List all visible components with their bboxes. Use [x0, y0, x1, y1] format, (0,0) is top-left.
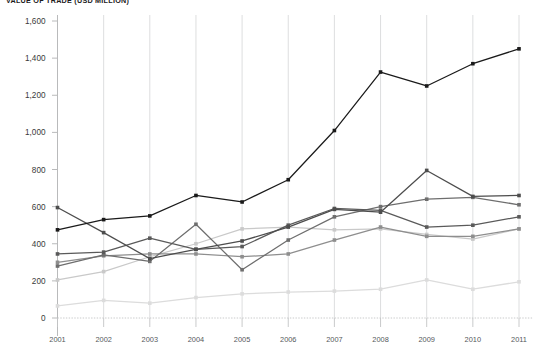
series-data-point — [333, 228, 337, 232]
x-axis-tick-label: 2009 — [418, 335, 434, 344]
series-data-point — [333, 238, 337, 242]
series-data-point — [148, 301, 152, 305]
series-data-point — [194, 252, 198, 256]
series-data-point — [194, 242, 198, 246]
series-data-point — [102, 250, 106, 254]
series-data-point — [286, 225, 290, 229]
series-data-point — [425, 225, 429, 229]
series-data-point — [471, 223, 475, 227]
series-data-point — [425, 278, 429, 282]
series-data-point — [379, 70, 383, 74]
x-axis-tick-label: 2010 — [465, 335, 481, 344]
series-data-point — [379, 210, 383, 214]
series-data-point — [102, 299, 106, 303]
x-axis-labels: 2001200220032004200520062007200820092010… — [49, 335, 527, 344]
series-data-point — [379, 287, 383, 291]
y-axis-tick-label: 1,200 — [25, 91, 46, 100]
series-data-point — [517, 227, 521, 231]
series-data-point — [471, 195, 475, 199]
series-data-point — [102, 270, 106, 274]
series-data-point — [425, 169, 429, 173]
y-axis-ticks — [52, 21, 58, 318]
series-data-point — [56, 278, 60, 282]
y-axis-labels: 02004006008001,0001,2001,4001,600 — [25, 17, 46, 323]
series-data-point — [194, 248, 198, 252]
series-data-point — [471, 235, 475, 239]
series-data-point — [194, 296, 198, 300]
gridlines-group — [58, 15, 520, 318]
series-data-point — [379, 225, 383, 229]
series-data-point — [517, 194, 521, 198]
series-data-point — [56, 206, 60, 210]
series-data-point — [56, 304, 60, 308]
series-data-point — [286, 290, 290, 294]
series-data-point — [333, 129, 337, 133]
axis-group — [58, 15, 534, 336]
series-data-point — [148, 236, 152, 240]
chart-container: VALUE OF TRADE (USD MILLION) 02004006008… — [0, 0, 537, 353]
line-chart-plot: 02004006008001,0001,2001,4001,600 200120… — [0, 0, 537, 353]
x-axis-tick-label: 2004 — [188, 335, 204, 344]
x-axis-tick-label: 2008 — [372, 335, 388, 344]
x-axis-tick-label: 2006 — [280, 335, 296, 344]
x-axis-tick-label: 2007 — [326, 335, 342, 344]
x-axis-tick-label: 2003 — [142, 335, 158, 344]
y-axis-tick-label: 1,400 — [25, 54, 46, 63]
y-axis-tick-label: 600 — [32, 203, 46, 212]
series-data-point — [240, 239, 244, 243]
x-axis-tick-label: 2002 — [95, 335, 111, 344]
series-data-point — [517, 203, 521, 207]
series-data-point — [56, 252, 60, 256]
series-data-point — [425, 197, 429, 201]
series-data-point — [240, 292, 244, 296]
series-data-point — [102, 231, 106, 235]
series-data-point — [286, 178, 290, 182]
series-data-point — [517, 280, 521, 284]
y-axis-tick-label: 1,000 — [25, 128, 46, 137]
series-data-point — [194, 222, 198, 226]
series-data-point — [379, 205, 383, 209]
y-axis-tick-label: 400 — [32, 240, 46, 249]
series-data-point — [333, 208, 337, 212]
series-data-point — [425, 84, 429, 88]
x-axis-tick-label: 2001 — [49, 335, 65, 344]
series-data-point — [148, 257, 152, 261]
series-data-point — [517, 215, 521, 219]
y-axis-tick-label: 800 — [32, 166, 46, 175]
series-data-point — [240, 245, 244, 249]
series-data-point — [286, 238, 290, 242]
series-data-point — [333, 215, 337, 219]
series-data-point — [194, 194, 198, 198]
series-data-point — [240, 255, 244, 259]
y-axis-tick-label: 200 — [32, 277, 46, 286]
series-data-point — [56, 228, 60, 232]
x-axis-tick-label: 2005 — [234, 335, 250, 344]
x-axis-tick-label: 2011 — [511, 335, 527, 344]
series-data-point — [286, 252, 290, 256]
series-data-point — [240, 227, 244, 231]
series-data-point — [148, 252, 152, 256]
series-data-point — [471, 287, 475, 291]
y-axis-tick-label: 0 — [41, 314, 46, 323]
series-data-point — [240, 200, 244, 204]
series-data-point — [56, 264, 60, 268]
series-data-point — [517, 47, 521, 51]
x-axis-ticks — [58, 318, 520, 327]
series-data-point — [471, 62, 475, 66]
series-data-point — [333, 289, 337, 293]
y-axis-tick-label: 1,600 — [25, 17, 46, 26]
series-data-point — [148, 214, 152, 218]
series-data-point — [240, 268, 244, 272]
series-data-point — [56, 261, 60, 265]
series-data-point — [102, 218, 106, 222]
series-data-point — [425, 235, 429, 239]
